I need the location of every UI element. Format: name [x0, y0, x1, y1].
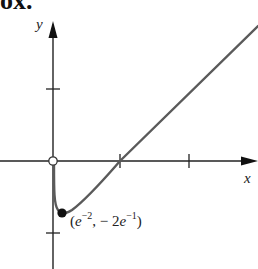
y-axis-label: y	[36, 16, 43, 33]
label-exponent-1: −2	[82, 210, 93, 221]
label-e-base-1: e	[75, 213, 82, 229]
y-axis-arrow-icon	[49, 21, 58, 38]
graph-figure: ox. y x (e−2, − 2e−1)	[0, 0, 258, 269]
function-curve	[54, 26, 258, 213]
origin-open-circle	[49, 157, 57, 165]
label-close-paren: )	[137, 213, 142, 229]
label-exponent-2: −1	[126, 210, 137, 221]
minimum-point-dot	[57, 208, 66, 217]
x-axis-arrow-icon	[241, 157, 258, 166]
minimum-point-label: (e−2, − 2e−1)	[70, 210, 142, 230]
label-separator: , − 2	[92, 213, 119, 229]
x-axis-label: x	[244, 170, 251, 187]
